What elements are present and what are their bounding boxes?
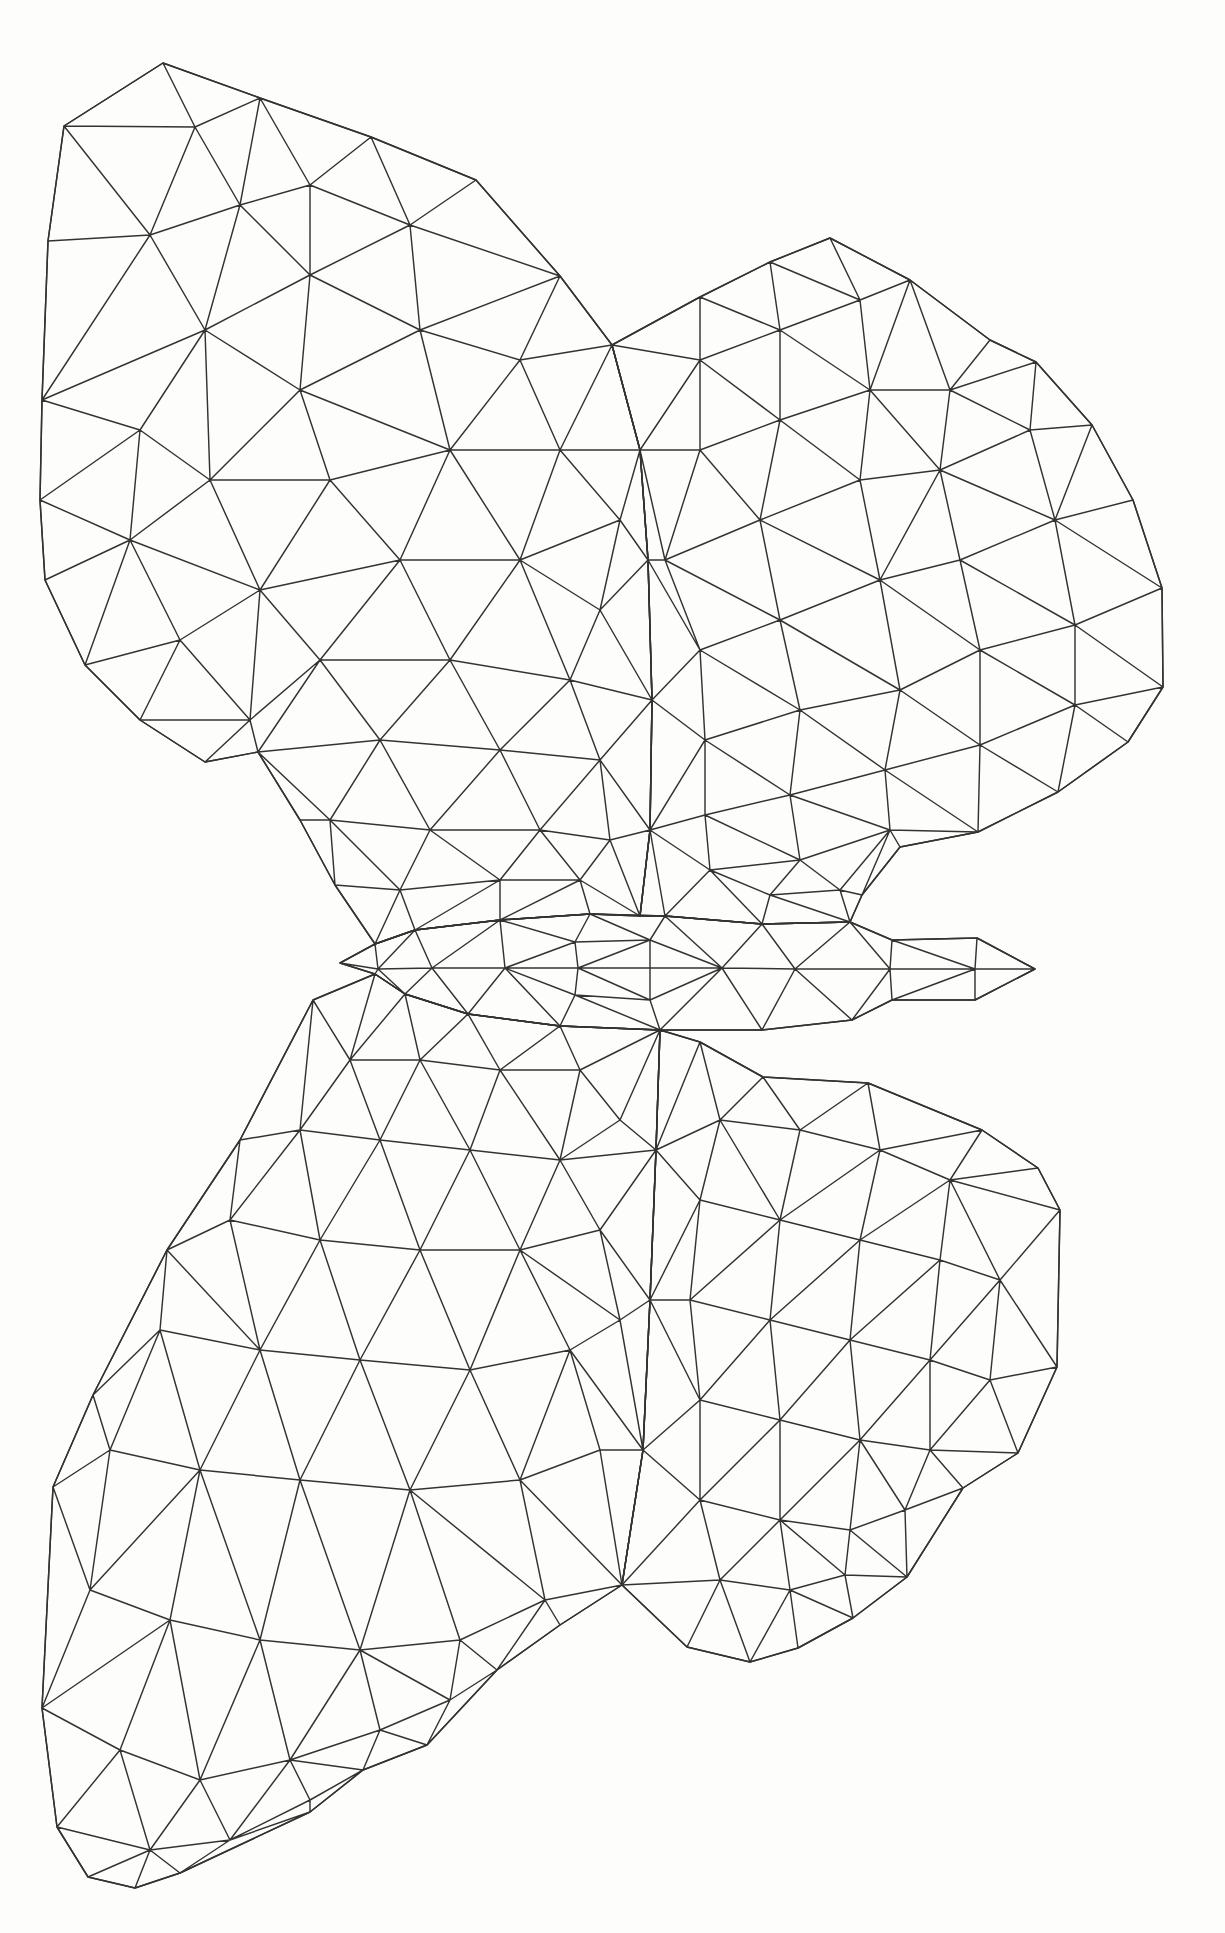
- upper-left-wing-triangulation-edges: [40, 63, 652, 944]
- lower-right-wing-mesh: [622, 1030, 1060, 1662]
- butterfly-line-art-page: [0, 0, 1225, 1933]
- upper-left-wing-silhouette-outline: [40, 63, 652, 944]
- body-silhouette-outline: [340, 914, 1035, 1030]
- body-mesh: [340, 914, 1035, 1030]
- lower-left-wing-silhouette-outline: [42, 974, 660, 1888]
- upper-right-wing-triangulation-edges: [612, 238, 1163, 924]
- lower-right-wing-triangulation-edges: [622, 1030, 1060, 1662]
- lower-left-wing-triangulation-edges: [42, 974, 660, 1888]
- lower-left-wing-mesh: [42, 974, 660, 1888]
- butterfly-wireframe-svg: [0, 0, 1225, 1933]
- upper-left-wing-mesh: [40, 63, 652, 944]
- lower-right-wing-silhouette-outline: [622, 1030, 1060, 1662]
- upper-right-wing-mesh: [612, 238, 1163, 924]
- body-triangulation-edges: [340, 914, 1035, 1030]
